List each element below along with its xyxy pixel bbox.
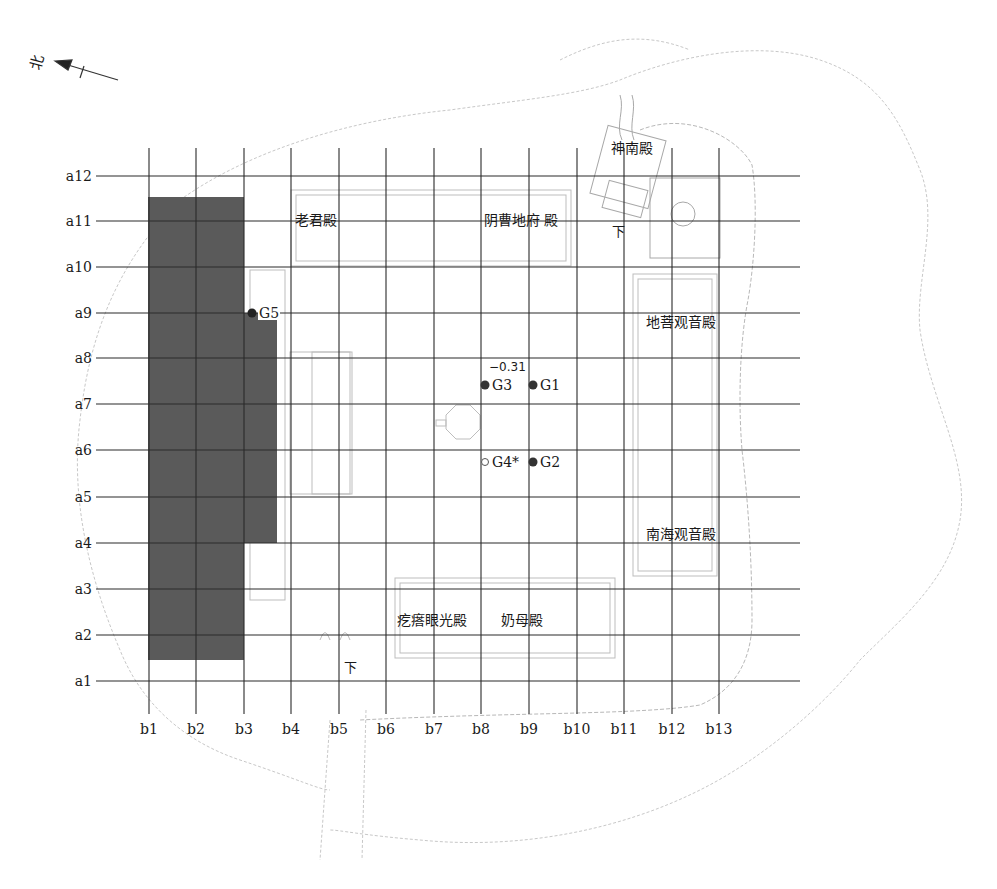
row-label-a9: a9 <box>52 306 92 320</box>
hall-label-geda: 疙瘩眼光殿 <box>397 613 467 627</box>
row-label-a4: a4 <box>52 536 92 550</box>
point-label-g5: G5 <box>258 306 280 320</box>
col-label-b4: b4 <box>276 722 306 736</box>
stair-down-label-south: 下 <box>344 661 357 674</box>
point-label-g3: G3 <box>492 378 512 392</box>
col-label-b10: b10 <box>562 722 592 736</box>
row-label-a6: a6 <box>52 443 92 457</box>
col-label-b1: b1 <box>134 722 164 736</box>
col-label-b5: b5 <box>324 722 354 736</box>
row-label-a5: a5 <box>52 490 92 504</box>
point-g3-marker <box>481 381 490 390</box>
col-label-b8: b8 <box>466 722 496 736</box>
stair-down-label-north: 下 <box>612 225 625 238</box>
row-label-a12: a12 <box>52 169 92 183</box>
building-outlines <box>250 190 717 658</box>
point-label-g1: G1 <box>540 378 560 392</box>
hall-label-dipu: 地菩观音殿 <box>646 315 716 329</box>
col-label-b9: b9 <box>514 722 544 736</box>
row-label-a1: a1 <box>52 674 92 688</box>
col-label-b2: b2 <box>181 722 211 736</box>
hall-label-shennan: 神南殿 <box>611 141 653 155</box>
row-label-a2: a2 <box>52 628 92 642</box>
elevation-label: −0.31 <box>489 361 526 373</box>
hall-label-yincao: 阴曹地府 殿 <box>484 213 558 227</box>
point-g5-marker <box>248 309 257 318</box>
col-label-b11: b11 <box>609 722 639 736</box>
row-label-a7: a7 <box>52 397 92 411</box>
col-label-b12: b12 <box>657 722 687 736</box>
point-g4-marker <box>482 459 489 466</box>
hall-label-nanhai: 南海观音殿 <box>646 527 716 541</box>
col-label-b13: b13 <box>704 722 734 736</box>
point-g1-marker <box>529 381 538 390</box>
col-label-b6: b6 <box>371 722 401 736</box>
hall-label-laojun: 老君殿 <box>295 213 337 227</box>
col-label-b3: b3 <box>229 722 259 736</box>
row-label-a8: a8 <box>52 351 92 365</box>
point-label-g2: G2 <box>540 455 560 469</box>
row-label-a3: a3 <box>52 582 92 596</box>
row-label-a10: a10 <box>52 260 92 274</box>
hall-label-naimu: 奶母殿 <box>501 613 543 627</box>
point-label-g4: G4* <box>492 455 519 469</box>
north-arrow-icon <box>55 60 118 80</box>
site-plan-drawing <box>0 0 997 889</box>
row-label-a11: a11 <box>52 214 92 228</box>
point-g2-marker <box>529 458 538 467</box>
col-label-b7: b7 <box>419 722 449 736</box>
